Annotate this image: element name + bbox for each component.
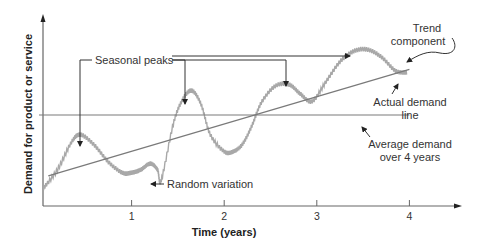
actual-demand-line (44, 47, 407, 190)
x-axis-arrow-icon (454, 204, 462, 209)
average-demand-label-line1: Average demand (368, 138, 452, 150)
x-tick-label: 3 (314, 210, 320, 222)
y-axis-arrow-icon (41, 14, 46, 22)
actual-demand-pointer (392, 84, 398, 94)
seasonal-peak-3-pointer (172, 60, 286, 86)
x-axis-title: Time (years) (192, 226, 257, 238)
average-demand-pointer (362, 127, 370, 137)
trend-component-label-line1: Trend (413, 22, 441, 34)
x-tick-label: 1 (129, 210, 135, 222)
actual-demand-label-line1: Actual demand (373, 96, 446, 108)
y-axis-title: Demand for product or service (22, 34, 34, 194)
demand-chart: 1234 Time (years) Demand for product or … (0, 0, 491, 252)
x-tick-label: 2 (221, 210, 227, 222)
actual-demand-label-line2: line (401, 109, 418, 121)
trend-line (48, 69, 409, 175)
x-tick-label: 4 (406, 210, 412, 222)
random-variation-label: Random variation (167, 178, 253, 190)
trend-component-label-line2: component (391, 35, 445, 47)
seasonal-peaks-label: Seasonal peaks (95, 54, 174, 66)
average-demand-label-line2: over 4 years (380, 151, 441, 163)
